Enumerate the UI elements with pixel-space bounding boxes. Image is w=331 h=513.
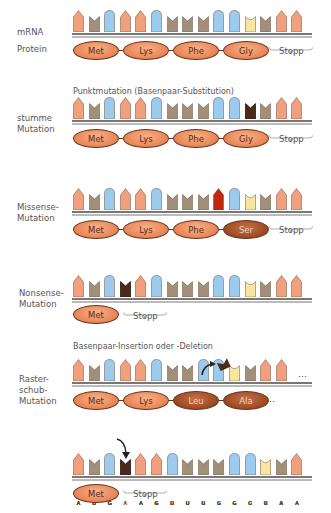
stop-codon-brace: [123, 304, 167, 311]
mrna-backbone: [72, 298, 312, 303]
nucleotide-U: U: [276, 459, 287, 507]
base-letter: U: [198, 500, 209, 506]
nucleotide-U: U: [182, 459, 193, 507]
peptide-bond: [119, 138, 123, 139]
base-letter: U: [182, 500, 193, 506]
amino-acid-leu: Leu: [173, 391, 219, 410]
peptide-bond: [119, 400, 123, 401]
mrna-backbone: [72, 120, 312, 125]
stop-codon-brace: [269, 39, 313, 46]
frameshift-label-line3: Mutation: [19, 396, 57, 407]
peptide-bond: [169, 138, 173, 139]
peptide-bond: [169, 400, 173, 401]
base-letter: A: [135, 500, 146, 506]
deleted-base-icon: [216, 356, 232, 375]
base-letter: U: [276, 500, 287, 506]
amino-acid-ser: Ser: [223, 220, 269, 239]
deletion-arrow-icon: [200, 360, 218, 380]
base-letter: G: [167, 500, 178, 506]
stop-label: Stopp: [279, 225, 304, 235]
peptide-bond: [119, 50, 123, 51]
amino-acid-phe: Phe: [173, 41, 219, 60]
protein-label: Protein: [17, 44, 47, 55]
peptide-bond: [119, 229, 123, 230]
nonsense-label-line1: Nonsense-: [19, 288, 64, 299]
mrna-backbone: [72, 476, 312, 481]
stop-label: Stopp: [279, 46, 304, 56]
mrna-backbone: [72, 33, 312, 38]
mrna-backbone: [72, 382, 312, 387]
missense-mutation-label: Missense- Mutation: [17, 202, 59, 224]
peptide-bond: [219, 138, 223, 139]
amino-acid-met: Met: [73, 305, 119, 324]
insertion-arrow-icon: [116, 438, 132, 464]
amino-acid-lys: Lys: [123, 220, 169, 239]
silent-mutation-label: stumme Mutation: [17, 113, 55, 135]
base-letter: U: [213, 500, 224, 506]
peptide-bond: [169, 50, 173, 51]
frameshift-mutation-label: Raster- schub- Mutation: [19, 374, 57, 407]
amino-acid-lys: Lys: [123, 41, 169, 60]
amino-acid-ala: Ala: [223, 391, 269, 410]
amino-acid-met: Met: [73, 41, 119, 60]
peptide-bond: [219, 400, 223, 401]
stop-codon-brace: [269, 127, 313, 134]
peptide-bond: [169, 229, 173, 230]
amino-acid-met: Met: [73, 391, 119, 410]
stop-codon-brace: [269, 218, 313, 225]
stop-label: Stopp: [133, 311, 158, 321]
amino-acid-lys: Lys: [123, 391, 169, 410]
base-letter: G: [245, 500, 256, 506]
base-letter: U: [120, 500, 131, 506]
base-letter: G: [229, 500, 240, 506]
base-letter: A: [291, 500, 302, 506]
base-letter: C: [260, 500, 271, 506]
nucleotide-U: U: [213, 459, 224, 507]
nonsense-label-line2: Mutation: [19, 299, 64, 310]
stop-label: Stopp: [279, 134, 304, 144]
base-letter: A: [151, 500, 162, 506]
amino-acid-met: Met: [73, 484, 119, 503]
amino-acid-phe: Phe: [173, 220, 219, 239]
amino-acid-gly: Gly: [223, 41, 269, 60]
frameshift-label-line1: Raster-: [19, 374, 57, 385]
nonsense-mutation-label: Nonsense- Mutation: [19, 288, 64, 310]
silent-label-line1: stumme: [17, 113, 55, 124]
silent-label-line2: Mutation: [17, 124, 55, 135]
continuation-ellipsis: …: [298, 369, 308, 379]
mrna-backbone: [72, 211, 312, 216]
amino-acid-met: Met: [73, 129, 119, 148]
missense-label-line1: Missense-: [17, 202, 59, 213]
peptide-bond: [219, 50, 223, 51]
stop-codon-brace: [123, 482, 167, 489]
nucleotide-C: C: [260, 459, 271, 507]
amino-acid-met: Met: [73, 220, 119, 239]
continuation-ellipsis: …: [266, 394, 276, 404]
missense-label-line2: Mutation: [17, 213, 59, 224]
stop-label: Stopp: [133, 489, 158, 499]
amino-acid-lys: Lys: [123, 129, 169, 148]
amino-acid-gly: Gly: [223, 129, 269, 148]
mrna-label: mRNA: [17, 27, 43, 38]
frameshift-label-line2: schub-: [19, 385, 57, 396]
peptide-bond: [219, 229, 223, 230]
amino-acid-phe: Phe: [173, 129, 219, 148]
nucleotide-U: U: [198, 459, 209, 507]
